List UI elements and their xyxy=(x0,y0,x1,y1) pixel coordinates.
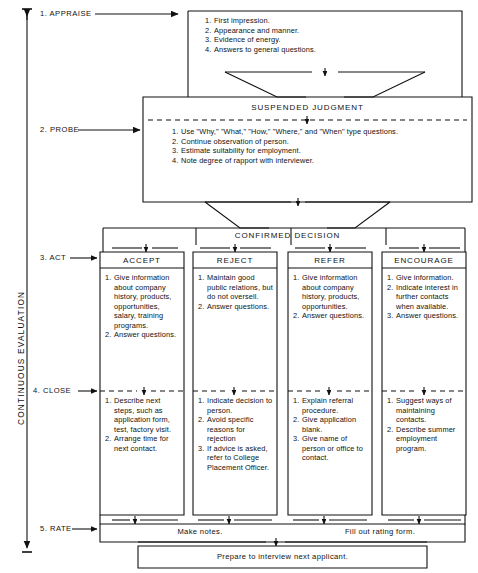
close-cell-refer: 1.Explain referral procedure. 2.Give app… xyxy=(293,396,369,463)
list-item: 1.Give information about company history… xyxy=(293,273,369,311)
list-item: 1.Maintain good public relations, but do… xyxy=(198,273,274,302)
step-label-rate: 5. RATE xyxy=(40,524,72,533)
column-heading-encourage: ENCOURAGE xyxy=(382,256,466,265)
act-cell-reject: 1.Maintain good public relations, but do… xyxy=(198,273,274,311)
list-item: 3.If advice is asked, refer to College P… xyxy=(198,444,274,473)
list-item: 1.First impression. xyxy=(205,16,450,26)
confirmed-decision-heading: CONFIRMED DECISION xyxy=(180,231,395,240)
flowchart-diagram: CONTINUOUS EVALUATION 1. APPRAISE 2. PRO… xyxy=(0,0,478,573)
list-item: 2.Answer questions. xyxy=(198,302,274,312)
list-item: 2.Arrange time for next contact. xyxy=(105,434,181,453)
step-label-close: 4. CLOSE xyxy=(33,386,71,395)
suspended-judgment-heading: SUSPENDED JUDGMENT xyxy=(143,103,472,112)
list-item: 4.Answers to general questions. xyxy=(205,45,450,55)
list-item: 2.Indicate interest in further contacts … xyxy=(387,283,463,312)
appraise-box: 1.First impression. 2.Appearance and man… xyxy=(205,16,450,54)
list-item: 4.Note degree of rapport with interviewe… xyxy=(172,156,440,166)
step-label-act: 3. ACT xyxy=(40,253,66,262)
act-cell-refer: 1.Give information about company history… xyxy=(293,273,369,321)
list-item: 2.Answer questions. xyxy=(105,330,181,340)
close-cell-reject: 1.Indicate decision to person. 2.Avoid s… xyxy=(198,396,274,472)
list-item: 1.Indicate decision to person. xyxy=(198,396,274,415)
continuous-evaluation-label: CONTINUOUS EVALUATION xyxy=(17,291,26,425)
column-heading-reject: REJECT xyxy=(193,256,277,265)
column-heading-refer: REFER xyxy=(288,256,372,265)
list-item: 3.Give name of person or office to conta… xyxy=(293,434,369,463)
act-cell-encourage: 1.Give information. 2.Indicate interest … xyxy=(387,273,463,321)
list-item: 2.Give application blank. xyxy=(293,415,369,434)
list-item: 2.Avoid specific reasons for rejection xyxy=(198,415,274,444)
list-item: 3.Estimate suitability for employment. xyxy=(172,146,440,156)
rate-make-notes-label: Make notes. xyxy=(110,527,290,536)
list-item: 2.Appearance and manner. xyxy=(205,26,450,36)
list-item: 1.Explain referral procedure. xyxy=(293,396,369,415)
suspended-judgment-box: 1.Use "Why," "What," "How," "Where," and… xyxy=(172,127,440,165)
step-label-probe: 2. PROBE xyxy=(40,125,79,134)
list-item: 1.Suggest ways of maintaining contacts. xyxy=(387,396,463,425)
final-step-label: Prepare to interview next applicant. xyxy=(138,552,427,561)
step-label-appraise: 1. APPRAISE xyxy=(40,9,92,18)
list-item: 1.Give information about company history… xyxy=(105,273,181,330)
rate-fill-form-label: Fill out rating form. xyxy=(290,527,470,536)
list-item: 3.Evidence of energy. xyxy=(205,35,450,45)
list-item: 2.Answer questions. xyxy=(293,311,369,321)
list-item: 2.Describe summer employment program. xyxy=(387,425,463,454)
list-item: 1.Describe next steps, such as applicati… xyxy=(105,396,181,434)
act-cell-accept: 1.Give information about company history… xyxy=(105,273,181,340)
column-heading-accept: ACCEPT xyxy=(100,256,184,265)
list-item: 1.Use "Why," "What," "How," "Where," and… xyxy=(172,127,440,137)
list-item: 3.Answer questions. xyxy=(387,311,463,321)
list-item: 2.Continue observation of person. xyxy=(172,137,440,147)
close-cell-encourage: 1.Suggest ways of maintaining contacts. … xyxy=(387,396,463,453)
close-cell-accept: 1.Describe next steps, such as applicati… xyxy=(105,396,181,453)
list-item: 1.Give information. xyxy=(387,273,463,283)
